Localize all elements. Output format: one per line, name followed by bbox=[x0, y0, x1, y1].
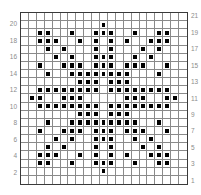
filled-cell bbox=[92, 86, 100, 94]
empty-cell bbox=[147, 143, 155, 151]
empty-cell bbox=[84, 127, 92, 135]
empty-cell bbox=[171, 168, 179, 176]
empty-cell bbox=[116, 151, 124, 159]
filled-cell bbox=[100, 29, 108, 37]
filled-cell bbox=[68, 86, 76, 94]
empty-cell bbox=[116, 29, 124, 37]
filled-cell bbox=[147, 54, 155, 62]
filled-cell bbox=[100, 135, 108, 143]
empty-cell bbox=[53, 46, 61, 54]
filled-cell bbox=[140, 127, 148, 135]
empty-cell bbox=[37, 78, 45, 86]
empty-cell bbox=[21, 37, 29, 45]
empty-cell bbox=[45, 168, 53, 176]
empty-cell bbox=[179, 168, 187, 176]
empty-cell bbox=[92, 168, 100, 176]
empty-cell bbox=[171, 135, 179, 143]
empty-cell bbox=[84, 37, 92, 45]
filled-cell bbox=[132, 119, 140, 127]
empty-cell bbox=[147, 46, 155, 54]
filled-cell bbox=[100, 160, 108, 168]
empty-cell bbox=[29, 127, 37, 135]
filled-cell bbox=[108, 160, 116, 168]
filled-cell bbox=[37, 151, 45, 159]
filled-cell bbox=[45, 86, 53, 94]
empty-cell bbox=[147, 160, 155, 168]
filled-cell bbox=[147, 151, 155, 159]
empty-cell bbox=[21, 62, 29, 70]
empty-cell bbox=[61, 78, 69, 86]
empty-cell bbox=[29, 160, 37, 168]
empty-cell bbox=[68, 13, 76, 21]
empty-cell bbox=[29, 13, 37, 21]
empty-cell bbox=[163, 111, 171, 119]
empty-cell bbox=[53, 13, 61, 21]
filled-cell bbox=[140, 46, 148, 54]
empty-cell bbox=[124, 135, 132, 143]
filled-cell bbox=[84, 70, 92, 78]
filled-cell bbox=[108, 135, 116, 143]
empty-cell bbox=[21, 127, 29, 135]
empty-cell bbox=[45, 78, 53, 86]
empty-cell bbox=[179, 94, 187, 102]
row-label-left: 14 bbox=[3, 70, 17, 78]
empty-cell bbox=[100, 37, 108, 45]
filled-cell bbox=[155, 46, 163, 54]
empty-cell bbox=[84, 46, 92, 54]
filled-cell bbox=[92, 160, 100, 168]
empty-cell bbox=[92, 94, 100, 102]
empty-cell bbox=[171, 62, 179, 70]
empty-cell bbox=[45, 13, 53, 21]
empty-cell bbox=[140, 168, 148, 176]
empty-cell bbox=[179, 13, 187, 21]
empty-cell bbox=[116, 13, 124, 21]
filled-cell bbox=[76, 70, 84, 78]
filled-cell bbox=[155, 70, 163, 78]
empty-cell bbox=[21, 46, 29, 54]
empty-cell bbox=[53, 160, 61, 168]
filled-cell bbox=[155, 143, 163, 151]
filled-cell bbox=[76, 151, 84, 159]
empty-cell bbox=[163, 119, 171, 127]
empty-cell bbox=[116, 168, 124, 176]
empty-cell bbox=[53, 94, 61, 102]
row-label-right: 11 bbox=[191, 95, 201, 103]
empty-cell bbox=[171, 127, 179, 135]
filled-cell bbox=[163, 151, 171, 159]
empty-cell bbox=[29, 37, 37, 45]
filled-cell bbox=[147, 37, 155, 45]
empty-cell bbox=[37, 135, 45, 143]
empty-cell bbox=[147, 176, 155, 184]
filled-cell bbox=[68, 135, 76, 143]
filled-cell bbox=[37, 160, 45, 168]
empty-cell bbox=[124, 54, 132, 62]
filled-cell bbox=[163, 160, 171, 168]
empty-cell bbox=[132, 111, 140, 119]
empty-cell bbox=[21, 21, 29, 29]
empty-cell bbox=[155, 62, 163, 70]
empty-cell bbox=[61, 176, 69, 184]
filled-cell bbox=[61, 127, 69, 135]
empty-cell bbox=[61, 111, 69, 119]
filled-cell bbox=[37, 127, 45, 135]
filled-cell bbox=[163, 62, 171, 70]
empty-cell bbox=[61, 54, 69, 62]
filled-cell bbox=[132, 160, 140, 168]
filled-cell bbox=[68, 94, 76, 102]
filled-cell bbox=[76, 127, 84, 135]
empty-cell bbox=[147, 94, 155, 102]
filled-cell bbox=[68, 62, 76, 70]
filled-cell bbox=[92, 70, 100, 78]
row-label-left: 12 bbox=[3, 86, 17, 94]
empty-cell bbox=[68, 37, 76, 45]
empty-cell bbox=[179, 86, 187, 94]
filled-cell bbox=[108, 46, 116, 54]
filled-cell bbox=[108, 143, 116, 151]
filled-cell bbox=[108, 62, 116, 70]
filled-cell bbox=[140, 94, 148, 102]
filled-cell bbox=[100, 21, 108, 29]
filled-cell bbox=[108, 127, 116, 135]
empty-cell bbox=[100, 94, 108, 102]
filled-cell bbox=[100, 70, 108, 78]
empty-cell bbox=[61, 37, 69, 45]
